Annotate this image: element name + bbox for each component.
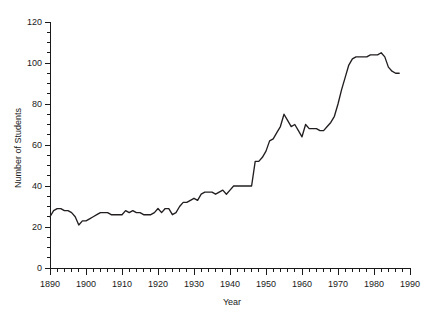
chart-background (0, 0, 439, 317)
y-tick-label-120: 120 (27, 17, 42, 27)
y-tick-label-40: 40 (32, 181, 42, 191)
x-tick-label-1890: 1890 (40, 279, 60, 289)
y-tick-label-80: 80 (32, 99, 42, 109)
x-tick-label-1990: 1990 (400, 279, 420, 289)
chart-container: 020406080100120 189019001910192019301940… (0, 0, 439, 317)
line-chart: 020406080100120 189019001910192019301940… (0, 0, 439, 317)
x-axis-title: Year (223, 297, 241, 307)
x-tick-label-1900: 1900 (76, 279, 96, 289)
x-tick-label-1970: 1970 (328, 279, 348, 289)
y-tick-label-0: 0 (37, 263, 42, 273)
y-axis-title: Number of Students (13, 107, 23, 188)
y-tick-label-60: 60 (32, 140, 42, 150)
x-tick-label-1940: 1940 (220, 279, 240, 289)
x-tick-label-1950: 1950 (256, 279, 276, 289)
y-tick-label-100: 100 (27, 58, 42, 68)
x-tick-label-1910: 1910 (112, 279, 132, 289)
x-tick-label-1980: 1980 (364, 279, 384, 289)
x-tick-label-1930: 1930 (184, 279, 204, 289)
x-tick-label-1920: 1920 (148, 279, 168, 289)
x-tick-label-1960: 1960 (292, 279, 312, 289)
y-tick-label-20: 20 (32, 222, 42, 232)
